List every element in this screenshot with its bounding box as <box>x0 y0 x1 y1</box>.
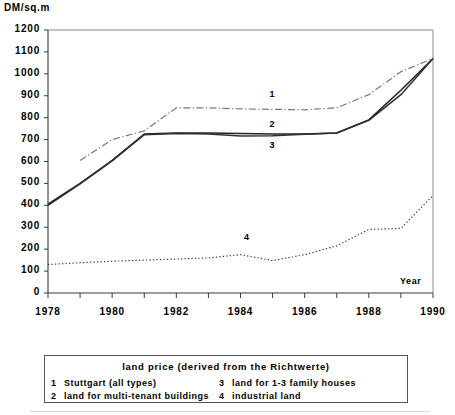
legend-entries: 1Stuttgart (all types)3land for 1-3 fami… <box>45 376 407 402</box>
y-tick-label: 0 <box>0 286 40 297</box>
legend-entry-key: 4 <box>219 391 232 401</box>
series-line-3 <box>48 58 433 205</box>
y-tick-label: 1100 <box>0 45 40 56</box>
y-tick-label: 400 <box>0 198 40 209</box>
legend-entry-label: Stuttgart (all types) <box>64 378 157 388</box>
y-tick-label: 200 <box>0 242 40 253</box>
y-tick-label: 100 <box>0 264 40 275</box>
y-tick-label: 500 <box>0 176 40 187</box>
x-tick-label: 1988 <box>343 306 395 317</box>
series-line-2 <box>48 58 433 204</box>
series-tag-3: 3 <box>270 140 275 150</box>
x-tick-label: 1986 <box>279 306 331 317</box>
y-tick-label: 1200 <box>0 23 40 34</box>
x-tick-label: 1990 <box>407 306 455 317</box>
legend-entry-key: 2 <box>51 391 64 401</box>
page-bottom-rule <box>30 411 430 412</box>
legend-entry-label: industrial land <box>232 391 301 401</box>
legend-entry-label: land for 1-3 family houses <box>232 378 356 388</box>
legend-entry-2: 2land for multi-tenant buildings <box>51 389 219 402</box>
y-tick-label: 900 <box>0 89 40 100</box>
x-tick-label: 1984 <box>215 306 267 317</box>
series-line-4 <box>48 195 433 264</box>
x-tick-label: 1982 <box>150 306 202 317</box>
legend-entry-label: land for multi-tenant buildings <box>64 391 209 401</box>
x-tick-label: 1978 <box>22 306 74 317</box>
legend-entry-key: 3 <box>219 378 232 388</box>
legend-entry-3: 3land for 1-3 family houses <box>219 376 415 389</box>
legend-title: land price (derived from the Richtwerte) <box>45 361 407 372</box>
legend-box: land price (derived from the Richtwerte)… <box>44 355 408 403</box>
series-tag-1: 1 <box>270 89 275 99</box>
x-tick-label: 1980 <box>86 306 138 317</box>
y-tick-label: 800 <box>0 111 40 122</box>
land-price-chart-figure: DM/sq.m 01002003004005006007008009001000… <box>0 0 455 415</box>
y-tick-label: 700 <box>0 133 40 144</box>
series-tag-2: 2 <box>270 119 275 129</box>
y-tick-label: 600 <box>0 155 40 166</box>
y-tick-label: 300 <box>0 220 40 231</box>
legend-entry-key: 1 <box>51 378 64 388</box>
x-axis-title: Year <box>400 276 421 286</box>
legend-entry-4: 4industrial land <box>219 389 415 402</box>
chart-plot-area <box>0 0 455 415</box>
legend-entry-1: 1Stuttgart (all types) <box>51 376 219 389</box>
series-tag-4: 4 <box>244 232 249 242</box>
y-tick-label: 1000 <box>0 67 40 78</box>
